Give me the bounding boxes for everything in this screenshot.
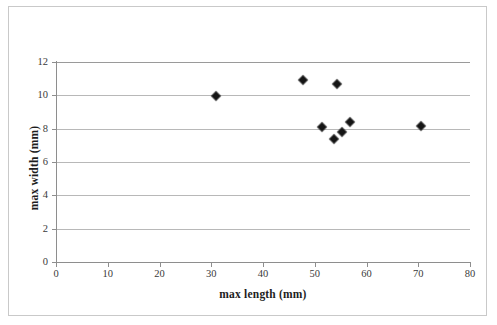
x-axis-line: [56, 262, 471, 263]
x-tick-mark-20: [160, 263, 161, 267]
x-tick-mark-50: [315, 263, 316, 267]
data-point: [330, 134, 338, 142]
y-axis-line: [56, 61, 57, 263]
gridline-y-12: [56, 62, 470, 63]
x-tick-label-50: 50: [303, 268, 327, 279]
x-tick-label-0: 0: [44, 268, 68, 279]
chart-screenshot: 024681012 01020304050607080 max length (…: [0, 0, 497, 325]
gridline-y-4: [56, 195, 470, 196]
x-tick-mark-0: [56, 263, 57, 267]
gridline-y-6: [56, 162, 470, 163]
data-point: [337, 128, 345, 136]
x-tick-mark-10: [108, 263, 109, 267]
gridline-y-10: [56, 95, 470, 96]
y-tick-label-12: 12: [28, 57, 48, 67]
x-tick-mark-30: [211, 263, 212, 267]
x-tick-mark-70: [418, 263, 419, 267]
x-tick-mark-60: [367, 263, 368, 267]
x-tick-label-20: 20: [148, 268, 172, 279]
x-tick-label-10: 10: [96, 268, 120, 279]
x-tick-label-30: 30: [199, 268, 223, 279]
x-tick-label-80: 80: [458, 268, 482, 279]
y-axis-title: max width (mm): [28, 68, 40, 268]
x-axis-title: max length (mm): [56, 288, 470, 300]
x-tick-label-40: 40: [251, 268, 275, 279]
gridline-y-2: [56, 229, 470, 230]
x-tick-mark-80: [470, 263, 471, 267]
x-tick-mark-40: [263, 263, 264, 267]
gridline-y-8: [56, 129, 470, 130]
x-tick-label-70: 70: [406, 268, 430, 279]
data-point: [333, 79, 341, 87]
x-tick-label-60: 60: [355, 268, 379, 279]
